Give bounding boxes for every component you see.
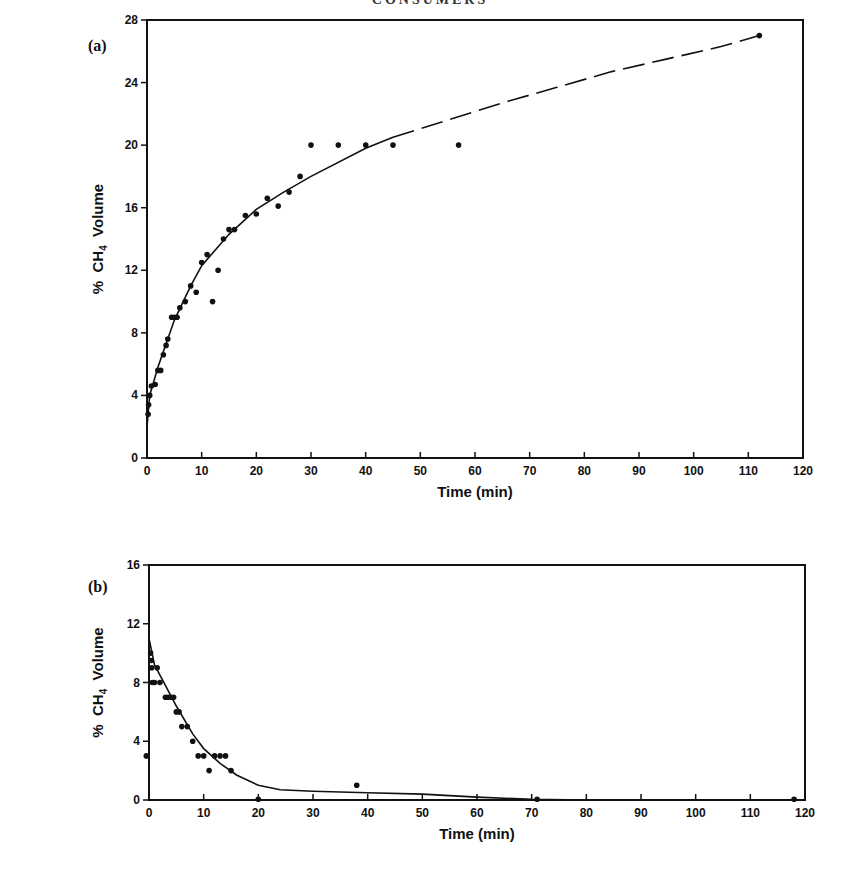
x-tick-label: 60: [470, 806, 484, 820]
y-tick-label: 4: [133, 734, 140, 748]
data-point: [255, 797, 261, 803]
x-axis-title: Time (min): [439, 825, 515, 842]
y-tick-label: 16: [127, 558, 141, 572]
x-tick-label: 20: [252, 806, 266, 820]
x-tick-label: 10: [197, 806, 211, 820]
data-point: [217, 753, 223, 759]
x-tick-label: 90: [634, 806, 648, 820]
y-axis-title: % CH4 Volume: [89, 627, 109, 737]
data-point: [201, 753, 207, 759]
data-point: [195, 753, 201, 759]
chart-b: 01020304050607080901001101200481216Time …: [0, 0, 858, 895]
x-tick-label: 70: [525, 806, 539, 820]
data-point: [179, 724, 185, 730]
data-point: [223, 753, 229, 759]
x-tick-label: 110: [741, 806, 761, 820]
y-tick-label: 12: [127, 617, 141, 631]
x-tick-label: 40: [361, 806, 375, 820]
x-tick-label: 100: [686, 806, 706, 820]
x-tick-label: 80: [580, 806, 594, 820]
data-point: [144, 753, 150, 759]
data-point: [149, 665, 155, 671]
data-point: [190, 739, 196, 745]
data-point: [354, 783, 360, 789]
x-tick-label: 30: [306, 806, 320, 820]
data-point: [152, 680, 158, 686]
data-point: [157, 680, 163, 686]
x-tick-label: 0: [146, 806, 153, 820]
data-point: [206, 768, 212, 774]
y-tick-label: 8: [133, 676, 140, 690]
x-tick-label: 120: [795, 806, 815, 820]
plot-frame: [149, 565, 805, 800]
fit-curve: [149, 638, 805, 800]
x-tick-label: 50: [416, 806, 430, 820]
y-tick-label: 0: [133, 793, 140, 807]
